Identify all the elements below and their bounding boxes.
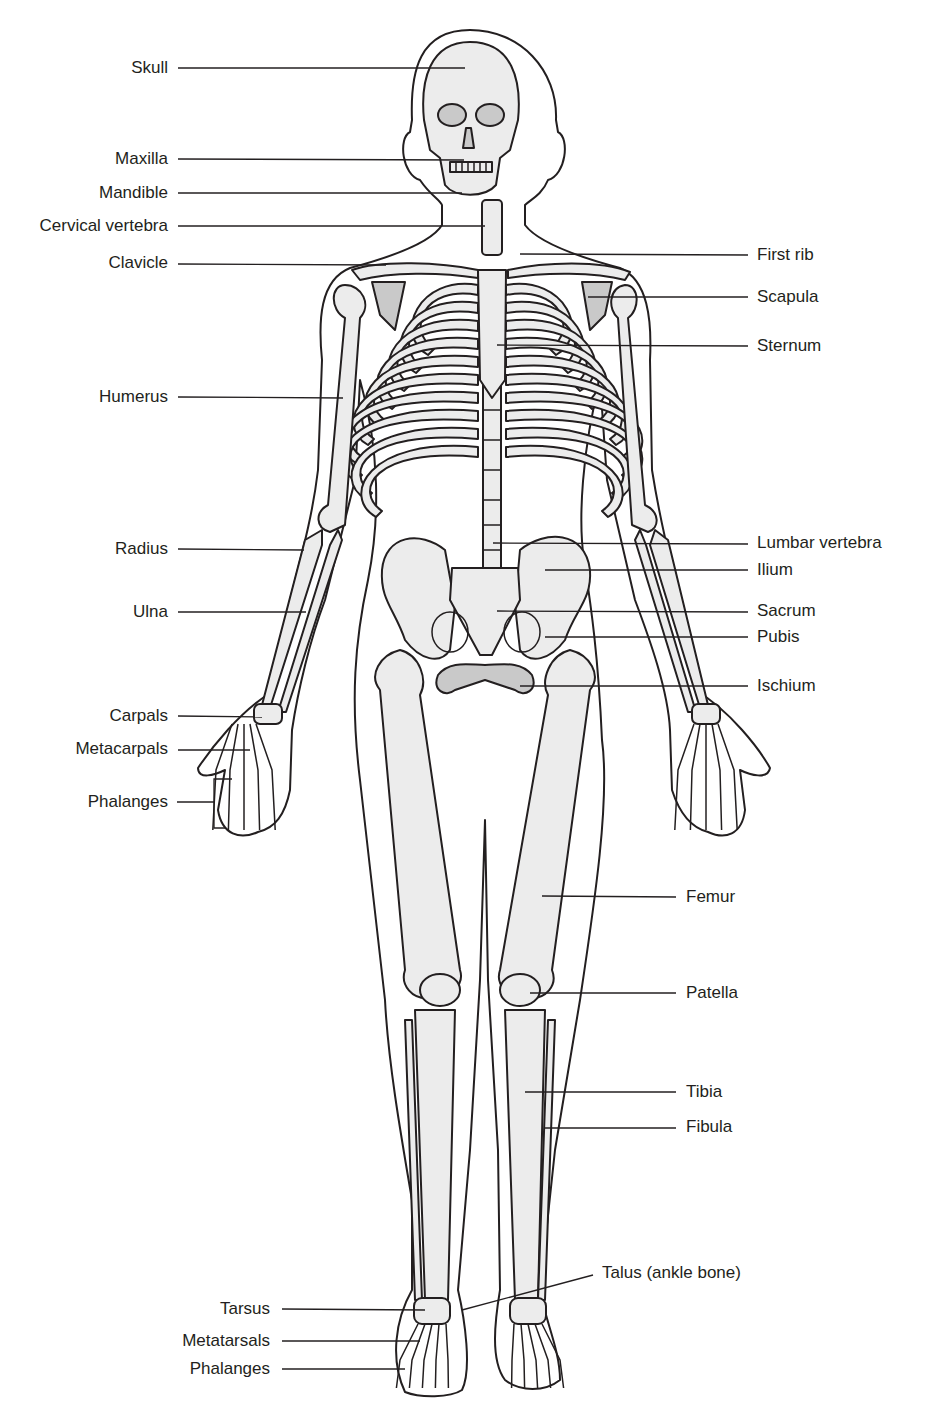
right-scapula: [582, 282, 612, 330]
leader-humerus: [178, 397, 343, 398]
label-metatarsals: Metatarsals: [182, 1331, 270, 1351]
left-leg: [375, 650, 461, 1388]
label-ulna: Ulna: [133, 602, 168, 622]
left-hand: [213, 704, 282, 830]
label-cervical-vertebra: Cervical vertebra: [40, 216, 169, 236]
skull: [423, 42, 519, 195]
toe-bone: [512, 1324, 514, 1388]
label-clavicle: Clavicle: [108, 253, 168, 273]
label-sternum: Sternum: [757, 336, 821, 356]
carpal-bones: [254, 704, 282, 724]
carpal-bones: [692, 704, 720, 724]
left-foot: [396, 1298, 450, 1388]
finger-bone: [712, 724, 722, 830]
tarsal-bones: [510, 1298, 546, 1324]
left-scapula: [372, 282, 405, 330]
right-arm: [611, 285, 737, 830]
right-leg: [499, 650, 595, 1388]
label-pubis: Pubis: [757, 627, 800, 647]
label-sacrum: Sacrum: [757, 601, 816, 621]
label-metacarpals: Metacarpals: [75, 739, 168, 759]
skeleton-diagram: Skull Maxilla Mandible Cervical vertebra…: [0, 0, 936, 1408]
right-femur: [499, 650, 595, 998]
tarsal-bones: [414, 1298, 450, 1324]
label-fibula: Fibula: [686, 1117, 732, 1137]
right-hand: [675, 704, 737, 830]
label-patella: Patella: [686, 983, 738, 1003]
left-clavicle: [352, 263, 478, 280]
toe-bone: [422, 1324, 432, 1388]
right-foot: [510, 1298, 564, 1388]
leader-carpals: [178, 716, 262, 717]
label-humerus: Humerus: [99, 387, 168, 407]
sternum: [478, 270, 506, 398]
label-tarsus: Tarsus: [220, 1299, 270, 1319]
toe-bone: [435, 1324, 439, 1388]
label-carpals: Carpals: [109, 706, 168, 726]
label-radius: Radius: [115, 539, 168, 559]
toe-bone: [528, 1324, 538, 1388]
right-patella: [500, 974, 540, 1006]
toe-bone: [521, 1324, 525, 1388]
label-skull: Skull: [131, 58, 168, 78]
label-first-rib: First rib: [757, 245, 814, 265]
label-phalanges-foot: Phalanges: [190, 1359, 270, 1379]
leader-first-rib: [520, 254, 748, 255]
left-orbit: [438, 104, 466, 126]
label-talus: Talus (ankle bone): [602, 1263, 741, 1283]
leader-clavicle: [178, 264, 386, 265]
label-tibia: Tibia: [686, 1082, 722, 1102]
right-ilium: [515, 537, 590, 659]
label-ischium: Ischium: [757, 676, 816, 696]
label-lumbar-vertebra: Lumbar vertebra: [757, 533, 882, 553]
label-ilium: Ilium: [757, 560, 793, 580]
label-femur: Femur: [686, 887, 735, 907]
left-ilium: [382, 538, 455, 658]
finger-bone: [250, 724, 260, 830]
skeleton-illustration: [0, 0, 936, 1408]
left-femur: [375, 650, 461, 998]
right-orbit: [476, 104, 504, 126]
label-scapula: Scapula: [757, 287, 818, 307]
label-mandible: Mandible: [99, 183, 168, 203]
nasal-cavity: [463, 128, 474, 148]
right-clavicle: [508, 264, 630, 281]
cervical-spine: [482, 200, 502, 255]
left-patella: [420, 974, 460, 1006]
finger-bone: [690, 724, 700, 830]
ischium: [436, 664, 533, 693]
finger-bone: [228, 724, 238, 830]
left-rib: [361, 446, 478, 517]
left-arm: [213, 285, 365, 830]
toe-bone: [446, 1324, 448, 1388]
label-maxilla: Maxilla: [115, 149, 168, 169]
leader-maxilla: [178, 159, 464, 160]
label-phalanges-hand: Phalanges: [88, 792, 168, 812]
leader-radius: [178, 549, 304, 550]
